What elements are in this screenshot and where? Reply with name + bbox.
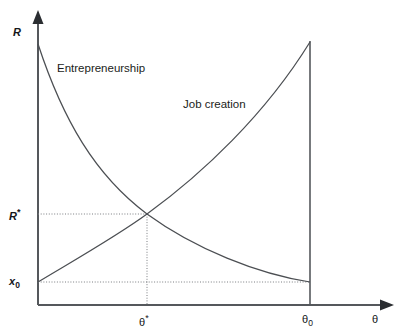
economics-diagram: R R* x0 θ* θ0 θ Entrepreneurship Job cre…	[0, 0, 405, 336]
y-tick-label-r-star: R*	[9, 208, 20, 222]
job-creation-curve-label: Job creation	[183, 99, 246, 111]
y-tick-label-r-star-base: R	[9, 210, 17, 222]
y-axis-arrowhead-icon	[33, 10, 44, 24]
y-tick-label-x-zero-subscript: 0	[15, 280, 20, 290]
chart-canvas	[0, 0, 405, 336]
entrepreneurship-curve	[38, 44, 310, 282]
y-tick-label-x-zero: x0	[9, 276, 20, 290]
job-creation-curve	[38, 42, 310, 282]
y-tick-label-r-star-superscript: *	[17, 207, 21, 217]
y-axis-label: R	[13, 27, 21, 38]
x-tick-label-theta-star-superscript: *	[145, 313, 149, 323]
x-tick-label-theta-zero: θ0	[302, 314, 313, 328]
x-tick-label-theta-star: θ*	[139, 314, 149, 328]
x-tick-label-theta-zero-subscript: 0	[308, 318, 313, 328]
entrepreneurship-curve-label: Entrepreneurship	[57, 63, 145, 75]
x-axis-arrowhead-icon	[380, 300, 394, 311]
x-axis-label: θ	[372, 314, 378, 325]
